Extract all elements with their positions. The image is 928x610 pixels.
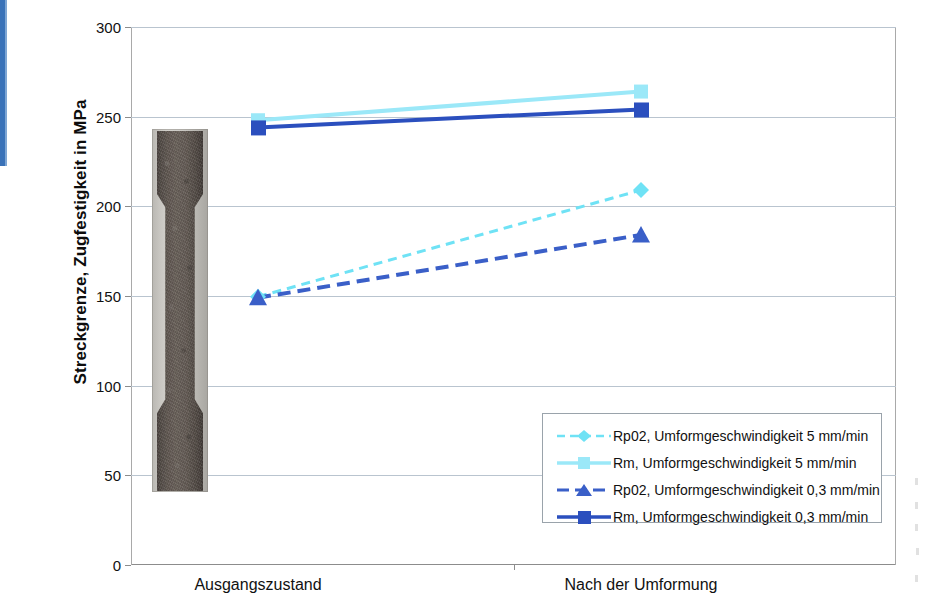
- page-edge-rule: [0, 0, 7, 166]
- y-tick-label-0: 0: [113, 557, 121, 574]
- data-point-rm-03-left: [251, 120, 266, 135]
- scan-speckle: [916, 548, 919, 555]
- legend-label-rp02-03: Rp02, Umformgeschwindigkeit 0,3 mm/min: [613, 482, 880, 498]
- scan-speckle: [915, 575, 918, 582]
- series-line-rm-5: [258, 92, 641, 121]
- x-axis-label-nach-der-umformung: Nach der Umformung: [565, 576, 718, 594]
- x-axis-label-ausgangszustand: Ausgangszustand: [194, 576, 321, 594]
- chart-legend: Rp02, Umformgeschwindigkeit 5 mm/min Rm,…: [542, 413, 882, 523]
- legend-swatch-rm-03: [555, 510, 613, 524]
- legend-item-rp02-5[interactable]: Rp02, Umformgeschwindigkeit 5 mm/min: [543, 422, 881, 449]
- page-edge-rule-highlight: [5, 0, 7, 166]
- y-tick-label-200: 200: [96, 198, 121, 215]
- y-tick-label-250: 250: [96, 108, 121, 125]
- legend-swatch-rp02-03: [555, 483, 613, 497]
- y-tick-label-50: 50: [104, 467, 121, 484]
- y-tick-label-300: 300: [96, 19, 121, 36]
- legend-item-rp02-03[interactable]: Rp02, Umformgeschwindigkeit 0,3 mm/min: [543, 476, 881, 503]
- y-tick-label-150: 150: [96, 288, 121, 305]
- data-point-rp02-5-right: [633, 182, 649, 198]
- scan-speckle: [915, 524, 918, 531]
- legend-label-rp02-5: Rp02, Umformgeschwindigkeit 5 mm/min: [613, 428, 868, 444]
- series-line-rm-03: [258, 109, 641, 127]
- legend-swatch-rp02-5: [555, 429, 613, 443]
- specimen-body: [157, 131, 203, 491]
- legend-item-rm-5[interactable]: Rm, Umformgeschwindigkeit 5 mm/min: [543, 449, 881, 476]
- tick-mark-0: [125, 565, 131, 566]
- specimen-surface-texture: [157, 131, 203, 491]
- tensile-specimen-photo: [152, 129, 208, 492]
- legend-swatch-rm-5: [555, 456, 613, 470]
- chart-screenshot: Streckgrenze, Zugfestigkeit in MPa 300 2…: [0, 0, 928, 610]
- legend-item-rm-03[interactable]: Rm, Umformgeschwindigkeit 0,3 mm/min: [543, 503, 881, 530]
- scan-speckle: [915, 478, 918, 485]
- y-axis-title: Streckgrenze, Zugfestigkeit in MPa: [71, 52, 91, 432]
- legend-label-rm-03: Rm, Umformgeschwindigkeit 0,3 mm/min: [613, 509, 868, 525]
- scan-speckle: [915, 502, 918, 509]
- data-point-rm-5-right: [634, 85, 648, 99]
- y-tick-label-100: 100: [96, 377, 121, 394]
- data-point-rm-03-right: [634, 102, 649, 117]
- legend-label-rm-5: Rm, Umformgeschwindigkeit 5 mm/min: [613, 455, 857, 471]
